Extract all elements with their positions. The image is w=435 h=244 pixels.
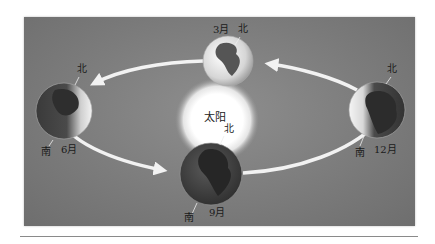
north-label-june: 北 (77, 64, 87, 74)
south-label-june: 南 (41, 147, 51, 157)
south-label-december: 南 (355, 148, 365, 158)
sun-label: 太阳 (204, 112, 226, 123)
earth-march (203, 36, 253, 86)
month-label-march: 3月 (213, 25, 229, 35)
north-label-december: 北 (387, 64, 397, 74)
earth-december (349, 77, 405, 146)
south-label-september: 南 (184, 213, 194, 223)
month-label-september: 9月 (209, 208, 225, 218)
north-label-march: 北 (238, 24, 248, 34)
earth-june (36, 77, 92, 146)
orbit-arrow-december-to-march (270, 64, 357, 90)
north-label-september: 北 (224, 124, 234, 134)
divider-line (20, 236, 418, 237)
orbit-arrow-march-to-june (95, 61, 203, 83)
month-label-june: 6月 (61, 145, 77, 155)
month-label-december: 12月 (374, 145, 397, 155)
